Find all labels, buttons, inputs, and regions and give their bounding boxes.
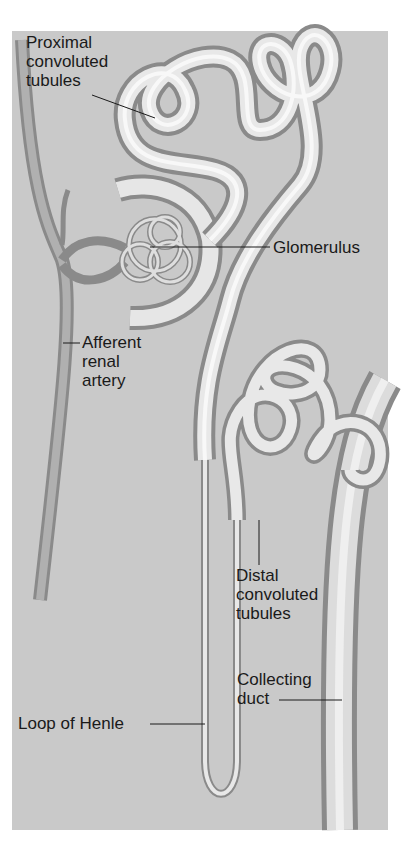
label-glomerulus: Glomerulus <box>273 238 360 257</box>
renal-artery <box>22 40 125 600</box>
label-distal-tubules: Distal convoluted tubules <box>236 566 318 623</box>
label-afferent-renal-artery: Afferent renal artery <box>82 333 141 390</box>
label-collecting-duct: Collecting duct <box>237 670 312 708</box>
label-loop-of-henle: Loop of Henle <box>18 714 124 733</box>
label-proximal-tubules: Proximal convoluted tubules <box>26 33 108 90</box>
